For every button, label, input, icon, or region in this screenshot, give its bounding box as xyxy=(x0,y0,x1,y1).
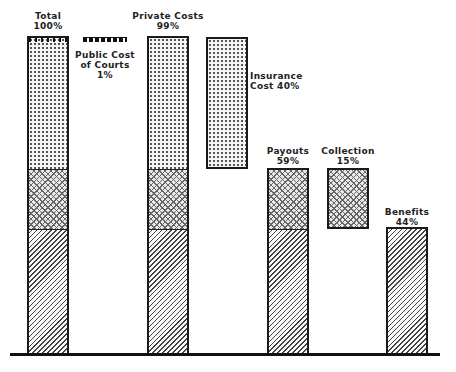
public-cost-label: Public Cost of Courts 1% xyxy=(70,50,140,80)
bar-collection xyxy=(327,168,369,229)
bar-total xyxy=(27,36,69,356)
total-label-name: Total xyxy=(18,11,78,21)
collection-label: Collection 15% xyxy=(313,146,383,166)
insurance-cost-label-name: Insurance xyxy=(250,71,310,81)
segment-dots xyxy=(149,38,187,169)
x-axis-baseline xyxy=(10,353,440,356)
segment-dots xyxy=(208,39,246,167)
benefits-label: Benefits 44% xyxy=(377,207,437,227)
insurance-cost-label: Insurance Cost 40% xyxy=(250,71,310,91)
total-label: Total 100% xyxy=(18,11,78,31)
bar-public-cost-of-courts xyxy=(83,37,127,42)
bar-insurance-cost xyxy=(206,37,248,169)
public-cost-label-line1: Public Cost xyxy=(70,50,140,60)
collection-label-name: Collection xyxy=(313,146,383,156)
payouts-label-name: Payouts xyxy=(258,146,318,156)
segment-hatch xyxy=(269,229,307,354)
collection-label-value: 15% xyxy=(313,156,383,166)
segment-crosshatch xyxy=(329,170,367,227)
bar-payouts xyxy=(267,168,309,356)
bar-benefits xyxy=(386,227,428,356)
segment-dots xyxy=(29,38,67,169)
segment-crosshatch xyxy=(149,169,187,229)
bar-private-costs xyxy=(147,36,189,356)
benefits-label-name: Benefits xyxy=(377,207,437,217)
insurance-cost-label-value: Cost 40% xyxy=(250,81,310,91)
payouts-label-value: 59% xyxy=(258,156,318,166)
private-costs-label-value: 99% xyxy=(128,21,208,31)
segment-crosshatch xyxy=(269,170,307,229)
segment-crosshatch xyxy=(29,169,67,229)
private-costs-label-name: Private Costs xyxy=(128,11,208,21)
public-cost-label-line2: of Courts xyxy=(70,60,140,70)
segment-public-cost-ticks xyxy=(29,38,67,42)
payouts-label: Payouts 59% xyxy=(258,146,318,166)
segment-hatch xyxy=(388,229,426,354)
segment-hatch xyxy=(29,229,67,354)
total-label-value: 100% xyxy=(18,21,78,31)
private-costs-label: Private Costs 99% xyxy=(128,11,208,31)
public-cost-label-value: 1% xyxy=(70,70,140,80)
segment-hatch xyxy=(149,229,187,354)
benefits-label-value: 44% xyxy=(377,217,437,227)
